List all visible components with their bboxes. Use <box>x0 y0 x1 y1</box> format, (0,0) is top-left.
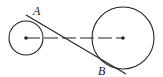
point-b-label: B <box>98 64 106 77</box>
common-tangent-line <box>26 15 126 74</box>
small-circle-center-dot <box>24 36 28 40</box>
point-a-label: A <box>32 4 41 18</box>
tangent-circles-diagram: A B <box>0 0 163 77</box>
large-circle-center-dot <box>121 36 125 40</box>
